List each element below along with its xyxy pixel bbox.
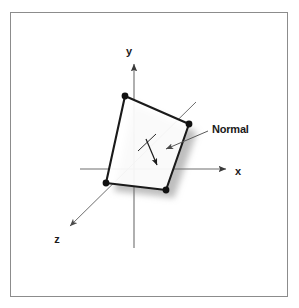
polygon-vertex <box>122 93 129 100</box>
figure-container: x y z Normal <box>0 0 299 308</box>
polygon-vertex <box>103 180 110 187</box>
normal-label: Normal <box>212 123 249 135</box>
geometry-diagram: x y z Normal <box>0 0 299 308</box>
x-axis-label: x <box>235 165 242 177</box>
z-axis-label: z <box>54 233 60 245</box>
polygon-vertex <box>186 121 193 128</box>
y-axis-label: y <box>126 45 133 57</box>
polygon-vertex <box>163 187 170 194</box>
